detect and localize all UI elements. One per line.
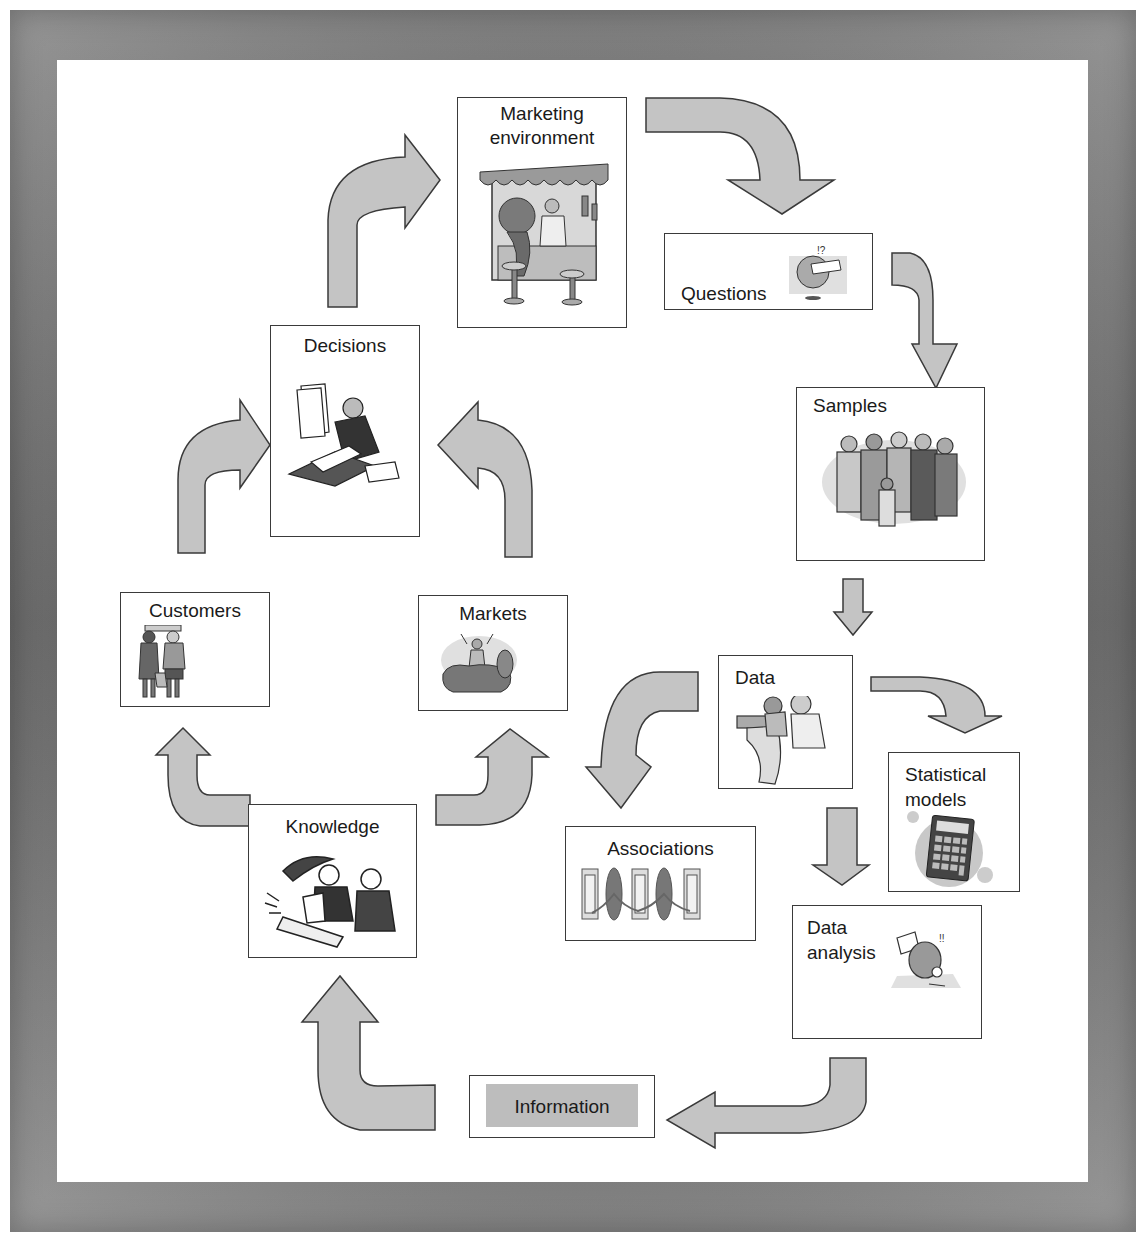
person-with-papers-icon [285, 382, 405, 502]
node-label: Statistical [905, 763, 986, 787]
node-label: models [905, 788, 966, 812]
svg-text:!?: !? [817, 245, 826, 256]
node-label: Decisions [271, 334, 419, 358]
node-label: Data [807, 916, 847, 940]
node-label: environment [458, 126, 626, 150]
arrow-data-to-associations [586, 672, 698, 808]
magnifier-person-icon: !! [887, 928, 965, 994]
node-label: Customers [121, 599, 269, 623]
node-label: analysis [807, 941, 876, 965]
market-stall-icon [472, 156, 614, 306]
node-data[interactable]: Data [718, 655, 853, 789]
node-label: Samples [813, 394, 887, 418]
node-customers[interactable]: Customers [120, 592, 270, 707]
node-statistical-models[interactable]: Statistical models [888, 752, 1020, 892]
node-label: Markets [419, 602, 567, 626]
arrow-data-to-statistical [871, 677, 1002, 733]
svg-text:!!: !! [939, 933, 945, 944]
node-label: Associations [566, 837, 755, 861]
arrow-data-to-analysis [813, 808, 869, 885]
arrow-decisions-to-marketing [328, 135, 440, 307]
node-information[interactable]: Information [469, 1075, 655, 1138]
calculator-icon [903, 811, 1003, 889]
node-data-analysis[interactable]: Data analysis !! [792, 905, 982, 1039]
arrow-customers-to-decisions [178, 400, 270, 553]
node-decisions[interactable]: Decisions [270, 325, 420, 537]
node-samples[interactable]: Samples [796, 387, 985, 561]
node-label: Data [735, 666, 775, 690]
node-label: Questions [681, 282, 767, 306]
arrow-marketing-to-questions [646, 98, 834, 214]
node-associations[interactable]: Associations [565, 826, 756, 941]
node-knowledge[interactable]: Knowledge [248, 804, 417, 958]
shoppers-icon [135, 625, 195, 705]
node-label: Knowledge [249, 815, 416, 839]
arrow-samples-to-data [834, 579, 872, 635]
linked-reels-icon [580, 867, 704, 925]
business-people-icon [263, 851, 403, 951]
arrow-information-to-knowledge [302, 976, 435, 1130]
node-label: Information [470, 1095, 654, 1119]
arrow-knowledge-to-markets [436, 729, 548, 825]
arrow-questions-to-samples [892, 253, 957, 388]
node-label: Marketing [458, 102, 626, 126]
node-marketing-environment[interactable]: Marketing environment [457, 97, 627, 328]
node-questions[interactable]: Questions !? [664, 233, 873, 310]
node-markets[interactable]: Markets [418, 595, 568, 711]
arrow-analysis-to-information [667, 1058, 866, 1148]
arrow-knowledge-to-customers [156, 728, 250, 826]
arrow-markets-to-decisions [438, 402, 532, 557]
people-reading-printout-icon [735, 696, 835, 786]
puzzled-person-icon: !? [783, 242, 853, 304]
market-crowd-icon [439, 630, 519, 700]
group-of-people-icon [819, 424, 969, 540]
